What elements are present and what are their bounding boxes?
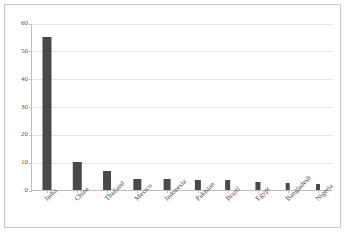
- y-axis-tick-label: 60: [6, 20, 28, 27]
- y-axis-tick-label: 20: [6, 131, 28, 138]
- bar[interactable]: [255, 182, 260, 190]
- bar-slot: [273, 23, 303, 190]
- chart-frame: 0102030405060 IndiaChinaThailandMexicoIn…: [4, 4, 341, 228]
- x-axis-labels: IndiaChinaThailandMexicoIndonesiaPakista…: [31, 193, 332, 233]
- bar-slot: [92, 23, 122, 190]
- y-axis-tick-label: 0: [6, 187, 28, 194]
- bar-slot: [243, 23, 273, 190]
- bar-slot: [183, 23, 213, 190]
- bar[interactable]: [194, 180, 200, 190]
- bar[interactable]: [73, 162, 81, 190]
- y-axis-tick-label: 50: [6, 48, 28, 55]
- y-axis-tick-label: 40: [6, 76, 28, 83]
- bar-slot: [32, 23, 62, 190]
- bar[interactable]: [286, 183, 291, 190]
- y-axis-tick-label: 30: [6, 104, 28, 111]
- bar-slot: [122, 23, 152, 190]
- bar-slot: [152, 23, 182, 190]
- bar-slot: [62, 23, 92, 190]
- bar[interactable]: [43, 37, 52, 190]
- bar[interactable]: [103, 171, 111, 190]
- bar[interactable]: [225, 180, 231, 190]
- bar-series: [32, 23, 333, 190]
- bar-slot: [213, 23, 243, 190]
- bar-slot: [303, 23, 333, 190]
- y-axis-tick-mark: [29, 191, 32, 192]
- plot-area: 0102030405060: [31, 24, 332, 191]
- y-axis-tick-label: 10: [6, 159, 28, 166]
